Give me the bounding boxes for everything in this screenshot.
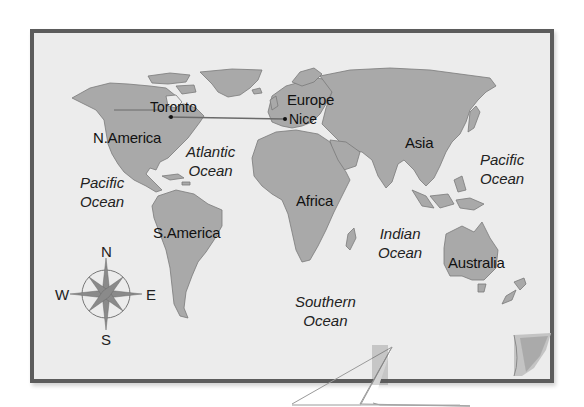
compass-north-label: N [101, 244, 112, 259]
label-pacific-ocean-east: Pacific Ocean [480, 150, 524, 188]
label-indian-ocean: Indian Ocean [378, 224, 422, 262]
greenland-shape [200, 69, 262, 97]
label-asia: Asia [405, 135, 433, 150]
label-north-america: N.America [93, 130, 161, 145]
label-southern-ocean: Southern Ocean [295, 292, 356, 330]
australia-shape [444, 222, 498, 280]
compass-east-label: E [146, 287, 156, 302]
label-australia: Australia [448, 255, 505, 270]
label-atlantic-ocean: Atlantic Ocean [186, 142, 235, 180]
south-america-shape [152, 190, 222, 318]
label-pacific-ocean-west: Pacific Ocean [80, 173, 124, 211]
toronto-dot [169, 115, 173, 119]
label-europe: Europe [287, 92, 334, 107]
label-nice: Nice [289, 112, 317, 126]
compass-rose-icon [70, 258, 142, 330]
compass-west-label: W [55, 287, 69, 302]
label-south-america: S.America [153, 225, 220, 240]
label-africa: Africa [296, 193, 333, 208]
label-toronto: Toronto [150, 100, 197, 114]
compass-south-label: S [101, 332, 111, 347]
nice-dot [283, 117, 287, 121]
